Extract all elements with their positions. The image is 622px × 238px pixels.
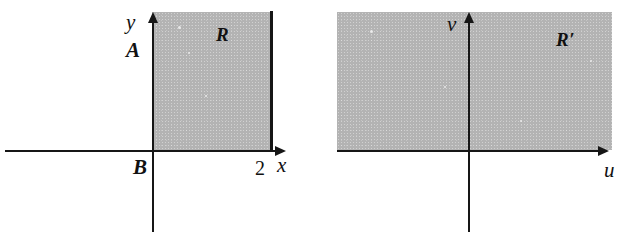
right-panel-uv-plane: v R′ u	[0, 0, 622, 238]
shade-speck	[590, 60, 592, 62]
v-axis-label: v	[447, 14, 456, 35]
v-axis-line	[468, 22, 470, 232]
figure-root: y A R B 2 x v R′ u	[0, 0, 622, 238]
shade-speck	[444, 86, 446, 88]
u-axis-arrowhead	[598, 146, 609, 156]
region-label-R-prime: R′	[556, 30, 575, 49]
shade-speck	[520, 120, 522, 122]
u-axis-label: u	[604, 160, 615, 181]
shade-speck	[370, 30, 373, 33]
v-axis-arrowhead	[464, 12, 474, 23]
